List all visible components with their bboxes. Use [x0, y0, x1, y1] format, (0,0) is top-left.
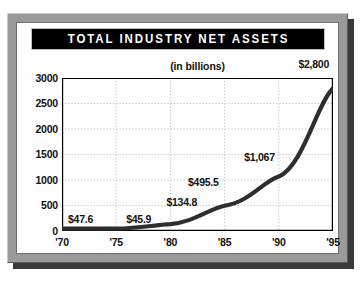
x-axis-tick-label: '95: [313, 236, 353, 248]
data-point-label: $1,067: [244, 151, 275, 163]
chart-figure: TOTAL INDUSTRY NET ASSETS (in billions) …: [0, 0, 360, 287]
x-axis-tick-label: '85: [205, 236, 245, 248]
cropped-caption-text: [14, 278, 347, 287]
axis-tick-marks: [62, 78, 333, 231]
gridlines: [62, 78, 333, 231]
y-axis-tick-label: 2500: [18, 98, 58, 109]
data-point-label: $134.8: [166, 196, 197, 208]
data-point-label: $45.9: [126, 213, 151, 225]
chart-title-bar: TOTAL INDUSTRY NET ASSETS: [31, 28, 325, 50]
y-axis-tick-label: 0: [18, 226, 58, 237]
axis-lines: [62, 78, 333, 231]
data-point-label: $2,800: [298, 58, 329, 70]
plot-svg: [62, 78, 333, 231]
x-axis-tick-label: '70: [42, 236, 82, 248]
chart-title: TOTAL INDUSTRY NET ASSETS: [67, 32, 289, 46]
x-axis-tick-label: '75: [96, 236, 136, 248]
plot-area: [62, 78, 333, 231]
y-axis-tick-label: 1000: [18, 175, 58, 186]
x-axis-tick-labels: '70'75'80'85'90'95: [0, 236, 360, 252]
y-axis-tick-label: 2000: [18, 124, 58, 135]
y-axis-tick-label: 1500: [18, 149, 58, 160]
x-axis-tick-label: '90: [259, 236, 299, 248]
data-series-line: [62, 88, 333, 228]
y-axis-tick-label: 500: [18, 200, 58, 211]
cropped-caption: [14, 278, 347, 287]
data-point-label: $47.6: [68, 213, 93, 225]
chart-subtitle: (in billions): [62, 60, 333, 72]
data-point-label: $495.5: [188, 176, 219, 188]
y-axis-tick-label: 3000: [18, 73, 58, 84]
x-axis-tick-label: '80: [150, 236, 190, 248]
